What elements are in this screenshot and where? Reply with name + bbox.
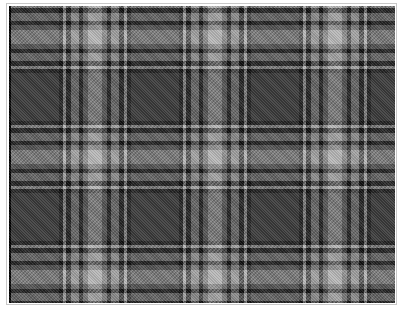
tartan-canvas [9,6,395,303]
tartan-fabric-image [9,6,395,303]
